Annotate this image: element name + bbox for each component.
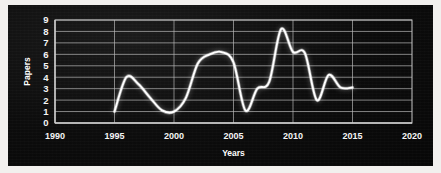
line-chart-plot: 1990199520002005201020152020 0123456789 … — [8, 5, 433, 166]
y-tick-5: 5 — [43, 60, 49, 71]
y-tick-4: 4 — [43, 72, 49, 83]
chart-plate: 1990199520002005201020152020 0123456789 … — [8, 5, 433, 166]
x-tick-2020: 2020 — [402, 131, 422, 141]
y-axis-tick-labels: 0123456789 — [43, 14, 49, 128]
y-tick-0: 0 — [43, 117, 48, 128]
y-tick-9: 9 — [43, 14, 48, 25]
y-tick-8: 8 — [43, 26, 48, 37]
y-tick-3: 3 — [43, 83, 48, 94]
y-tick-1: 1 — [43, 106, 49, 117]
y-axis-title: Papers — [22, 57, 32, 86]
x-tick-2015: 2015 — [342, 131, 362, 141]
x-tick-2005: 2005 — [223, 131, 243, 141]
y-tick-2: 2 — [43, 95, 48, 106]
y-tick-7: 7 — [43, 37, 48, 48]
x-axis-tick-labels: 1990199520002005201020152020 — [45, 131, 422, 141]
chart-figure: 1990199520002005201020152020 0123456789 … — [0, 0, 441, 173]
x-tick-2000: 2000 — [164, 131, 184, 141]
x-axis-title: Years — [222, 148, 245, 158]
y-tick-6: 6 — [43, 49, 48, 60]
x-tick-2010: 2010 — [283, 131, 303, 141]
x-tick-1995: 1995 — [104, 131, 124, 141]
x-tick-1990: 1990 — [45, 131, 65, 141]
